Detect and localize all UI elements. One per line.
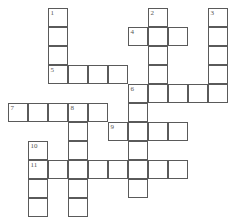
crossword-cell-r6-c8[interactable]	[168, 122, 188, 141]
crossword-cell-r6-c7[interactable]	[148, 122, 168, 141]
crossword-cell-r4-c9[interactable]	[188, 84, 208, 103]
clue-number-label: 9	[111, 124, 115, 131]
crossword-cell-r8-c3[interactable]	[68, 160, 88, 179]
crossword-cell-r3-c2[interactable]: 5	[48, 65, 68, 84]
crossword-cell-r0-c7[interactable]: 2	[148, 8, 168, 27]
crossword-cell-r6-c3[interactable]	[68, 122, 88, 141]
crossword-cell-r4-c8[interactable]	[168, 84, 188, 103]
clue-number-label: 7	[11, 105, 15, 112]
crossword-cell-r4-c10[interactable]	[208, 84, 228, 103]
crossword-cell-r8-c2[interactable]	[48, 160, 68, 179]
crossword-cell-r5-c2[interactable]	[48, 103, 68, 122]
clue-number-label: 2	[151, 10, 155, 17]
crossword-cell-r0-c2[interactable]: 1	[48, 8, 68, 27]
crossword-cell-r8-c6[interactable]	[128, 160, 148, 179]
crossword-cell-r5-c1[interactable]	[28, 103, 48, 122]
crossword-cell-r7-c6[interactable]	[128, 141, 148, 160]
crossword-cell-r8-c1[interactable]: 11	[28, 160, 48, 179]
crossword-cell-r5-c6[interactable]	[128, 103, 148, 122]
crossword-cell-r3-c10[interactable]	[208, 65, 228, 84]
clue-number-label: 5	[51, 67, 55, 74]
crossword-cell-r2-c2[interactable]	[48, 46, 68, 65]
crossword-cell-r7-c3[interactable]	[68, 141, 88, 160]
crossword-cell-r2-c7[interactable]	[148, 46, 168, 65]
clue-number-label: 1	[51, 10, 55, 17]
clue-number-label: 3	[211, 10, 215, 17]
crossword-cell-r1-c8[interactable]	[168, 27, 188, 46]
clue-number-label: 6	[131, 86, 135, 93]
crossword-cell-r5-c3[interactable]: 8	[68, 103, 88, 122]
crossword-cell-r8-c4[interactable]	[88, 160, 108, 179]
crossword-cell-r6-c6[interactable]	[128, 122, 148, 141]
crossword-cell-r9-c6[interactable]	[128, 179, 148, 198]
crossword-cell-r8-c7[interactable]	[148, 160, 168, 179]
clue-number-label: 8	[71, 105, 75, 112]
crossword-cell-r9-c3[interactable]	[68, 179, 88, 198]
crossword-cell-r3-c7[interactable]	[148, 65, 168, 84]
crossword-cell-r5-c4[interactable]	[88, 103, 108, 122]
crossword-cell-r10-c1[interactable]	[28, 198, 48, 217]
crossword-cell-r9-c1[interactable]	[28, 179, 48, 198]
crossword-cell-r6-c5[interactable]: 9	[108, 122, 128, 141]
clue-number-label: 11	[31, 162, 38, 169]
clue-number-label: 4	[131, 29, 135, 36]
crossword-cell-r10-c3[interactable]	[68, 198, 88, 217]
crossword-cell-r3-c5[interactable]	[108, 65, 128, 84]
crossword-cell-r3-c4[interactable]	[88, 65, 108, 84]
crossword-grid: 1523467891011	[0, 0, 236, 221]
crossword-cell-r4-c6[interactable]: 6	[128, 84, 148, 103]
crossword-cell-r8-c5[interactable]	[108, 160, 128, 179]
crossword-cell-r7-c1[interactable]: 10	[28, 141, 48, 160]
crossword-cell-r4-c7[interactable]	[148, 84, 168, 103]
crossword-cell-r3-c3[interactable]	[68, 65, 88, 84]
crossword-cell-r1-c7[interactable]	[148, 27, 168, 46]
crossword-cell-r2-c10[interactable]	[208, 46, 228, 65]
crossword-cell-r1-c2[interactable]	[48, 27, 68, 46]
clue-number-label: 10	[31, 143, 38, 150]
crossword-cell-r1-c10[interactable]	[208, 27, 228, 46]
crossword-cell-r1-c6[interactable]: 4	[128, 27, 148, 46]
crossword-cell-r8-c8[interactable]	[168, 160, 188, 179]
crossword-cell-r0-c10[interactable]: 3	[208, 8, 228, 27]
crossword-cell-r5-c0[interactable]: 7	[8, 103, 28, 122]
